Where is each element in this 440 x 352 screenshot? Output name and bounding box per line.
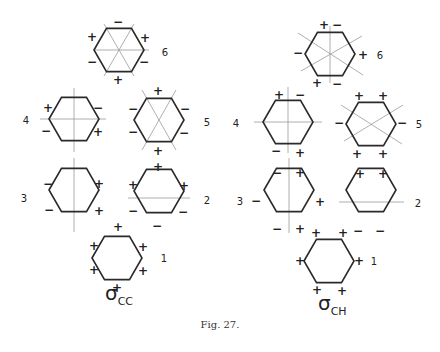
minus-sign: − [295, 88, 305, 102]
minus-sign: − [332, 18, 342, 32]
plus-sign: + [138, 240, 148, 254]
minus-sign: − [87, 55, 97, 69]
minus-sign: − [128, 125, 138, 139]
minus-sign: − [128, 102, 138, 116]
minus-sign: − [271, 144, 281, 158]
plus-sign: + [319, 18, 329, 32]
minus-sign: − [293, 46, 303, 60]
plus-sign: + [315, 195, 325, 209]
minus-sign: − [113, 15, 123, 29]
panel-sigma-cc: −++−−+6+−−+4+−−−−+5−+−+3+++−−−2++++++1σC… [21, 15, 210, 308]
hexagon-cc-2: +++−−−2 [128, 160, 210, 233]
plus-sign: + [89, 263, 99, 277]
minus-sign: − [353, 224, 363, 238]
hexagon-ch-2: ++−−2 [339, 167, 421, 238]
plus-sign: + [128, 178, 138, 192]
plus-sign: + [352, 147, 362, 161]
hexagon-cc-5: +−−−−+5 [128, 84, 210, 158]
hexagon-number: 6 [377, 50, 383, 61]
plus-sign: + [354, 254, 364, 268]
plus-sign: + [153, 160, 163, 174]
plus-sign: + [43, 101, 53, 115]
hexagon-outline [304, 239, 354, 282]
plus-sign: + [355, 167, 365, 181]
hexagon-number: 1 [161, 253, 167, 264]
plus-sign: + [295, 166, 305, 180]
minus-sign: − [397, 116, 407, 130]
hexagon-number: 5 [204, 117, 210, 128]
plus-sign: + [378, 167, 388, 181]
plus-sign: + [140, 31, 150, 45]
plus-sign: + [153, 84, 163, 98]
hexagon-cc-3: −+−+3 [21, 158, 104, 232]
hexagon-ch-1: ++++++1 [295, 226, 377, 298]
hexagon-ch-5: ++−−++5 [334, 89, 422, 161]
plus-sign: + [94, 177, 104, 191]
hexagon-number: 2 [415, 198, 421, 209]
minus-sign: − [334, 116, 344, 130]
hexagon-number: 5 [416, 119, 422, 130]
hexagon-number: 3 [237, 196, 243, 207]
minus-sign: − [375, 224, 385, 238]
minus-sign: − [152, 219, 162, 233]
plus-sign: + [311, 226, 321, 240]
plus-sign: + [113, 220, 123, 234]
minus-sign: − [179, 126, 189, 140]
plus-sign: + [295, 222, 305, 236]
minus-sign: − [93, 101, 103, 115]
hexagon-number: 1 [371, 256, 377, 267]
minus-sign: − [44, 203, 54, 217]
minus-sign: − [41, 124, 51, 138]
hexagon-ch-6: +−−++−6 [293, 18, 383, 91]
plus-sign: + [312, 76, 322, 90]
hexagon-number: 2 [204, 195, 210, 206]
plus-sign: + [153, 144, 163, 158]
minus-sign: − [272, 222, 282, 236]
hexagon-ch-4: +−−+4 [233, 87, 322, 160]
plus-sign: + [87, 30, 97, 44]
plus-sign: + [89, 239, 99, 253]
figure-caption: Fig. 27. [0, 319, 440, 330]
plus-sign: + [295, 254, 305, 268]
hexagon-cc-4: +−−+4 [23, 88, 106, 152]
plus-sign: + [378, 147, 388, 161]
plus-sign: + [337, 284, 347, 298]
hexagon-number: 3 [21, 193, 27, 204]
hexagon-outline [346, 168, 396, 211]
plus-sign: + [378, 89, 388, 103]
plus-sign: + [138, 264, 148, 278]
plus-sign: + [274, 88, 284, 102]
minus-sign: − [251, 194, 261, 208]
plus-sign: + [338, 226, 348, 240]
minus-sign: − [128, 204, 138, 218]
minus-sign: − [139, 55, 149, 69]
hexagon-number: 4 [23, 115, 29, 126]
figure-27: −++−−+6+−−+4+−−−−+5−+−+3+++−−−2++++++1σC… [0, 0, 440, 352]
hexagon-outline [92, 236, 142, 279]
plus-sign: + [358, 48, 368, 62]
plus-sign: + [354, 89, 364, 103]
minus-sign: − [178, 205, 188, 219]
plus-sign: + [93, 125, 103, 139]
minus-sign: − [272, 166, 282, 180]
plus-sign: + [295, 146, 305, 160]
hexagon-outline [134, 169, 184, 212]
hexagon-cc-6: −++−−+6 [87, 15, 168, 87]
hexagon-ch-3: −+−+−+3 [237, 158, 325, 236]
panel-sigma-ch: +−−++−6+−−+4++−−++5−+−+−+3++−−2++++++1σC… [233, 18, 422, 318]
plus-sign: + [179, 179, 189, 193]
plus-sign: + [113, 73, 123, 87]
hexagon-number: 4 [233, 118, 239, 129]
minus-sign: − [180, 102, 190, 116]
minus-sign: − [43, 177, 53, 191]
minus-sign: − [332, 77, 342, 91]
hexagon-number: 6 [162, 47, 168, 58]
plus-sign: + [94, 204, 104, 218]
